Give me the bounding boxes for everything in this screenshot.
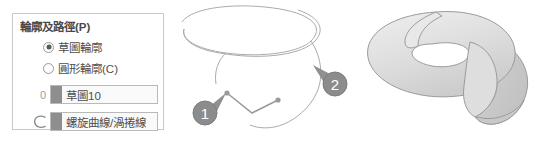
selection-color-swatch <box>51 86 62 103</box>
field-row-path-selection: 螺旋曲線/渦捲線 <box>32 112 158 131</box>
radio-label-circular-profile: 圓形輪廓(C) <box>58 60 118 76</box>
selection-color-swatch <box>51 113 62 130</box>
selected-sketch-polyline <box>227 93 278 113</box>
panel-title: 輪廓及路徑(P) <box>20 18 90 34</box>
sketch-vertex-point <box>275 97 280 102</box>
radio-button-icon[interactable] <box>43 42 54 53</box>
radio-option-circular-profile[interactable]: 圓形輪廓(C) <box>43 60 118 76</box>
radio-button-icon[interactable] <box>43 63 54 74</box>
helical-sweep-solid <box>358 0 548 144</box>
radio-option-sketch-profile[interactable]: 草圖輪廓 <box>43 39 102 55</box>
sketch-vertex-point <box>224 90 229 95</box>
radio-label-sketch-profile: 草圖輪廓 <box>58 39 102 55</box>
path-selection-field[interactable]: 螺旋曲線/渦捲線 <box>50 112 158 131</box>
contour-and-path-panel: 輪廓及路徑(P) 草圖輪廓 圓形輪廓(C) 0 草圖10 螺旋曲線/渦捲線 <box>12 13 164 130</box>
callout-badge-2: 2 <box>313 65 347 96</box>
sketch-selection-field[interactable]: 草圖10 <box>50 85 158 104</box>
callout-number-2: 2 <box>331 76 339 93</box>
field-index-label: 0 <box>32 89 46 101</box>
helix-curve-icon <box>32 112 49 131</box>
callout-badge-1: 1 <box>193 93 226 125</box>
sketch-selection-value: 草圖10 <box>62 87 101 103</box>
path-selection-value: 螺旋曲線/渦捲線 <box>62 114 146 130</box>
callout-number-1: 1 <box>201 105 209 122</box>
field-row-sketch-selection: 0 草圖10 <box>32 85 158 104</box>
helix-wireframe-preview: 1 2 <box>180 0 370 144</box>
